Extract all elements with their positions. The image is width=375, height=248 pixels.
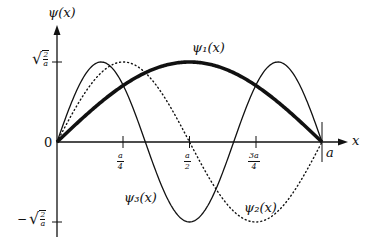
psi3-label: ψ₃(x): [124, 191, 157, 204]
y-tick-label-top: √2a: [32, 50, 49, 69]
x-axis-label: x: [352, 134, 359, 147]
tick-num: a: [184, 152, 191, 162]
tick-den: 4: [117, 162, 124, 171]
psi1-label: ψ₁(x): [192, 41, 225, 54]
x-tick-label-quarter: a 4: [117, 152, 124, 171]
tick-den: 2: [184, 162, 191, 171]
x-axis-arrow-icon: [338, 139, 348, 146]
origin-label: 0: [44, 135, 52, 150]
tick-num: 3a: [248, 152, 260, 162]
tick-den: 4: [248, 162, 260, 171]
minus-sign: −: [17, 212, 27, 226]
tick-num: a: [117, 152, 124, 162]
sqrt-radicand: 2a: [42, 50, 49, 69]
wavefunction-plot: [0, 0, 375, 248]
psi2-label: ψ₂(x): [244, 201, 277, 214]
y-axis-arrow-icon: [54, 25, 61, 35]
x-tick-label-3quarter: 3a 4: [248, 152, 260, 171]
radicand-den: a: [43, 60, 48, 68]
psi1-curve: [57, 62, 322, 142]
radicand-den: a: [40, 220, 45, 228]
x-tick-label-half: a 2: [184, 152, 191, 171]
x-end-label: a: [326, 146, 334, 159]
sqrt-icon: √: [29, 211, 39, 227]
y-axis-label: ψ(x): [48, 6, 76, 19]
sqrt-icon: √: [32, 51, 42, 67]
y-tick-label-bottom: −√2a: [17, 210, 46, 229]
sqrt-radicand: 2a: [39, 210, 46, 229]
